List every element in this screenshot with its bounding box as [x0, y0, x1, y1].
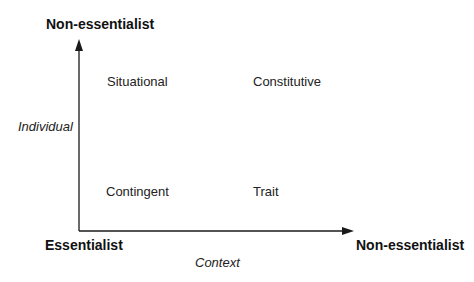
- quadrant-top-right: Constitutive: [253, 75, 321, 88]
- x-axis-right-label: Non-essentialist: [356, 238, 464, 252]
- origin-label: Essentialist: [45, 238, 123, 252]
- y-axis-arrow-icon: [75, 39, 83, 51]
- x-axis-arrow-icon: [342, 227, 354, 235]
- quadrant-bottom-right: Trait: [253, 185, 279, 198]
- x-axis-name: Context: [195, 256, 240, 269]
- y-axis-top-label: Non-essentialist: [46, 17, 154, 31]
- quadrant-bottom-left: Contingent: [106, 185, 169, 198]
- quadrant-top-left: Situational: [107, 75, 168, 88]
- y-axis-name: Individual: [18, 120, 73, 133]
